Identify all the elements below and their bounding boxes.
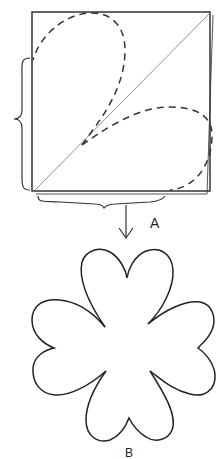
flower-shape (32, 249, 215, 441)
dashed-petal-lower (82, 107, 212, 190)
label-a: A (150, 215, 159, 231)
label-b: B (125, 446, 133, 459)
folded-square (32, 12, 210, 191)
left-brace (14, 58, 30, 190)
dashed-petal-upper (33, 13, 125, 145)
diagram-canvas (0, 0, 223, 459)
diagonal-fold-line (34, 12, 211, 191)
bottom-brace (38, 196, 165, 208)
